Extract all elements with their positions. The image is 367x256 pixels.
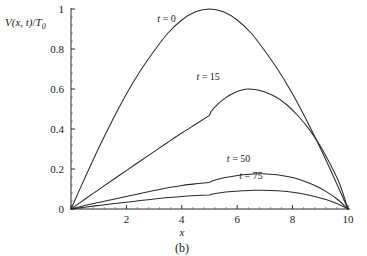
series-label-0: t = 0 [157, 13, 175, 24]
y-tick-label: 1 [59, 3, 65, 15]
series-labels: t = 0t = 15t = 50t = 75 [157, 13, 262, 181]
x-tick-label: 2 [124, 213, 130, 225]
figure-panel: 246810 00.20.40.60.81 t = 0t = 15t = 50t… [0, 0, 367, 256]
major-tick-marks [71, 9, 348, 209]
y-tick-label: 0.6 [50, 83, 64, 95]
x-tick-label: 6 [234, 213, 240, 225]
series-label-1: t = 15 [196, 71, 219, 82]
figure-caption: (b) [175, 241, 189, 255]
x-tick-label: 8 [290, 213, 296, 225]
series-label-2: t = 50 [227, 153, 250, 164]
x-tick-label: 4 [179, 213, 185, 225]
y-axis-label-sub: 0 [42, 22, 46, 31]
x-axis-label: x [179, 226, 185, 238]
y-tick-labels: 00.20.40.60.81 [50, 3, 64, 215]
curve-t-15 [71, 89, 348, 209]
series-label-3: t = 75 [239, 170, 262, 181]
curve-t-0 [71, 9, 348, 209]
y-axis-label: V(x, t)/T0 [5, 16, 46, 31]
x-tick-labels: 246810 [124, 213, 354, 225]
y-tick-label: 0.8 [50, 43, 64, 55]
y-tick-label: 0.4 [50, 123, 64, 135]
y-tick-label: 0.2 [50, 163, 64, 175]
y-axis-label-arg: (x, t) [12, 16, 33, 29]
y-tick-label: 0 [59, 203, 65, 215]
data-curves [71, 9, 348, 209]
line-chart: 246810 00.20.40.60.81 t = 0t = 15t = 50t… [0, 0, 367, 256]
x-tick-label: 10 [343, 213, 355, 225]
minor-tick-marks [71, 17, 337, 209]
